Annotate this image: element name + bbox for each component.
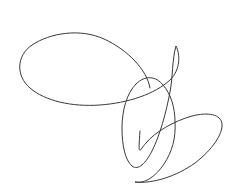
canvas-background xyxy=(0,0,242,188)
sketch-canvas xyxy=(0,0,242,188)
freehand-sketch-svg xyxy=(0,0,242,188)
